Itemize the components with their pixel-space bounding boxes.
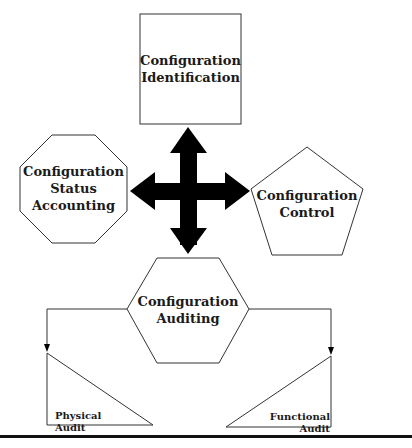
bottom-rule (0, 435, 412, 438)
four-way-arrow-icon (130, 127, 250, 254)
connector-physical (47, 309, 127, 348)
physical-audit-label: Physical Audit (55, 410, 135, 434)
auditing-label: Configuration Auditing (127, 293, 249, 327)
arrow-down-icon (44, 344, 50, 352)
identification-label: Configuration Identification (140, 52, 241, 86)
arrow-down-icon (328, 347, 334, 355)
status-accounting-label: Configuration Status Accounting (20, 163, 127, 214)
connector-functional (249, 309, 331, 350)
functional-audit-label: Functional Audit (246, 411, 330, 435)
control-label: Configuration Control (256, 187, 358, 221)
